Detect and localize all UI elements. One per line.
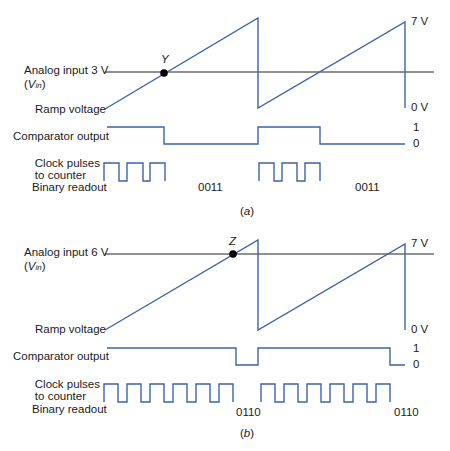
point-label-z: Z xyxy=(229,235,236,248)
binary-readout-label-b: Binary readout xyxy=(32,403,107,416)
analog-input-label-a: Analog input 3 V xyxy=(24,64,108,77)
binary-readout-value-b-2: 0110 xyxy=(394,406,419,419)
clock-pulses-a-cycle-2 xyxy=(259,163,320,181)
crossing-point-z xyxy=(229,250,237,258)
clock-pulses-a-cycle-1 xyxy=(104,163,165,181)
panel-caption-a: (a) xyxy=(240,205,254,218)
comparator-waveform-a xyxy=(107,127,405,144)
logic-low-label-b: 0 xyxy=(413,358,419,371)
binary-readout-value-a-2: 0011 xyxy=(355,181,380,194)
panel-a-graphics xyxy=(104,18,434,181)
v-max-label-b: 7 V xyxy=(411,237,428,250)
binary-readout-value-a-1: 0011 xyxy=(198,181,223,194)
ramp-waveform-a xyxy=(105,18,405,109)
v-min-label-b: 0 V xyxy=(411,323,428,336)
panel-caption-b: (b) xyxy=(240,427,254,440)
ramp-voltage-label-a: Ramp voltage xyxy=(35,103,106,116)
logic-high-label-b: 1 xyxy=(413,342,419,355)
clock-pulses-b-cycle-2 xyxy=(261,384,390,402)
comparator-output-label-b: Comparator output xyxy=(13,350,109,363)
logic-high-label-a: 1 xyxy=(413,121,419,134)
analog-input-label-b: Analog input 6 V xyxy=(24,246,108,259)
ramp-voltage-label-b: Ramp voltage xyxy=(35,323,106,336)
comparator-waveform-b xyxy=(107,348,405,365)
vin-label-a: (Vin) xyxy=(24,78,46,92)
binary-readout-label-a: Binary readout xyxy=(32,181,107,194)
point-label-y: Y xyxy=(161,53,169,66)
crossing-point-y xyxy=(160,69,168,77)
logic-low-label-a: 0 xyxy=(413,137,419,150)
binary-readout-value-b-1: 0110 xyxy=(236,406,261,419)
clock-pulses-label-b-line2: to counter xyxy=(0,390,86,403)
panel-b-graphics xyxy=(104,240,434,402)
v-max-label-a: 7 V xyxy=(411,15,428,28)
clock-pulses-b-cycle-1 xyxy=(104,384,233,402)
v-min-label-a: 0 V xyxy=(411,101,428,114)
vin-label-b: (Vin) xyxy=(24,260,46,274)
comparator-output-label-a: Comparator output xyxy=(13,130,109,143)
